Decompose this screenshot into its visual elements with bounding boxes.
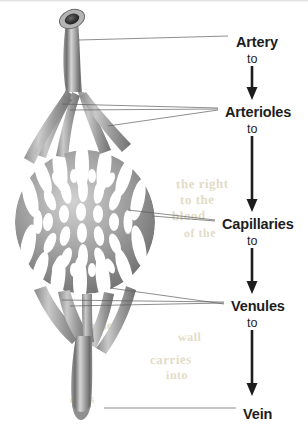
flow-arrow-head	[247, 199, 258, 212]
figure-canvas: the rightto thebloodof thethe vesselswal…	[0, 0, 308, 441]
flow-arrow-head	[247, 87, 258, 100]
flow-label-venules: Venules	[231, 298, 285, 314]
flow-label-arterioles: Arterioles	[225, 104, 291, 120]
flow-arrow-head	[247, 281, 258, 294]
flow-connector-word: to	[247, 122, 257, 136]
flow-connector-word: to	[247, 52, 257, 66]
flow-label-capillaries: Capillaries	[222, 216, 294, 232]
flow-arrow-head	[247, 383, 258, 396]
flow-label-artery: Artery	[236, 34, 278, 50]
flow-connector-word: to	[247, 316, 257, 330]
flow-label-vein: Vein	[243, 406, 272, 422]
flow-connector-word: to	[247, 234, 257, 248]
